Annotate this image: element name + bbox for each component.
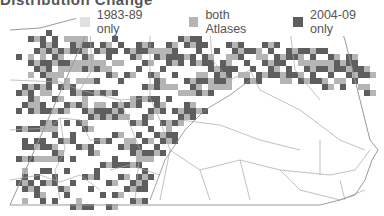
atlas-cell bbox=[118, 192, 124, 198]
atlas-cell bbox=[28, 180, 34, 186]
atlas-cell bbox=[136, 120, 142, 126]
atlas-cell bbox=[58, 150, 64, 156]
atlas-cell bbox=[76, 36, 82, 42]
atlas-cell bbox=[202, 78, 208, 84]
atlas-cell bbox=[112, 36, 118, 42]
atlas-cell bbox=[142, 42, 148, 48]
atlas-cell bbox=[100, 66, 106, 72]
atlas-cell bbox=[358, 66, 364, 72]
atlas-cell bbox=[184, 54, 190, 60]
atlas-cell bbox=[70, 42, 76, 48]
atlas-cell bbox=[238, 48, 244, 54]
atlas-cell bbox=[124, 174, 130, 180]
atlas-cell bbox=[100, 60, 106, 66]
atlas-cell bbox=[328, 66, 334, 72]
atlas-cell bbox=[172, 120, 178, 126]
atlas-cell bbox=[34, 186, 40, 192]
atlas-cell bbox=[352, 54, 358, 60]
atlas-cell bbox=[70, 180, 76, 186]
legend-item-both-atlases: both Atlases bbox=[189, 8, 272, 36]
atlas-cell bbox=[316, 60, 322, 66]
atlas-cell bbox=[136, 150, 142, 156]
atlas-cell bbox=[124, 138, 130, 144]
atlas-cell bbox=[196, 108, 202, 114]
atlas-cell bbox=[172, 84, 178, 90]
atlas-cell bbox=[256, 72, 262, 78]
atlas-cell bbox=[370, 72, 376, 78]
atlas-cell bbox=[280, 72, 286, 78]
atlas-cell bbox=[304, 66, 310, 72]
atlas-cell bbox=[268, 42, 274, 48]
atlas-cell bbox=[22, 102, 28, 108]
atlas-cell bbox=[178, 90, 184, 96]
atlas-cell bbox=[40, 42, 46, 48]
atlas-cell bbox=[268, 48, 274, 54]
atlas-cell bbox=[94, 48, 100, 54]
atlas-cell bbox=[268, 66, 274, 72]
atlas-cell bbox=[172, 60, 178, 66]
atlas-cell bbox=[34, 36, 40, 42]
atlas-cell bbox=[82, 54, 88, 60]
atlas-cell bbox=[166, 96, 172, 102]
atlas-cell bbox=[118, 78, 124, 84]
atlas-cell bbox=[70, 102, 76, 108]
atlas-cell bbox=[298, 48, 304, 54]
atlas-cell bbox=[340, 78, 346, 84]
atlas-cell bbox=[256, 48, 262, 54]
atlas-cell bbox=[58, 96, 64, 102]
atlas-cell bbox=[106, 180, 112, 186]
atlas-cell bbox=[172, 72, 178, 78]
atlas-cell bbox=[46, 144, 52, 150]
atlas-cell bbox=[328, 54, 334, 60]
atlas-cell bbox=[64, 48, 70, 54]
atlas-cell bbox=[94, 114, 100, 120]
atlas-cell bbox=[142, 186, 148, 192]
atlas-cell bbox=[214, 48, 220, 54]
atlas-cell bbox=[22, 156, 28, 162]
atlas-cell bbox=[274, 42, 280, 48]
atlas-cell bbox=[52, 72, 58, 78]
atlas-cell bbox=[154, 72, 160, 78]
atlas-cell bbox=[130, 150, 136, 156]
atlas-cell bbox=[310, 48, 316, 54]
legend-swatch-light bbox=[80, 17, 90, 27]
atlas-cell bbox=[58, 54, 64, 60]
atlas-cell bbox=[196, 42, 202, 48]
atlas-cell bbox=[172, 108, 178, 114]
atlas-cell bbox=[268, 60, 274, 66]
atlas-cell bbox=[148, 72, 154, 78]
atlas-cell bbox=[226, 54, 232, 60]
atlas-cell bbox=[46, 48, 52, 54]
atlas-cell bbox=[238, 54, 244, 60]
atlas-cell bbox=[136, 48, 142, 54]
atlas-cell bbox=[148, 114, 154, 120]
atlas-cell bbox=[190, 90, 196, 96]
atlas-cell bbox=[262, 42, 268, 48]
atlas-cell bbox=[52, 54, 58, 60]
atlas-cell bbox=[64, 108, 70, 114]
atlas-cell bbox=[202, 72, 208, 78]
atlas-cell bbox=[298, 54, 304, 60]
atlas-cell bbox=[250, 78, 256, 84]
atlas-cell bbox=[82, 66, 88, 72]
atlas-cell bbox=[136, 198, 142, 204]
atlas-cell bbox=[40, 102, 46, 108]
atlas-cell bbox=[88, 114, 94, 120]
atlas-cell bbox=[232, 66, 238, 72]
atlas-cell bbox=[304, 60, 310, 66]
atlas-cell bbox=[94, 60, 100, 66]
atlas-cell bbox=[166, 60, 172, 66]
atlas-cell bbox=[148, 60, 154, 66]
atlas-cell bbox=[166, 84, 172, 90]
atlas-cell bbox=[328, 60, 334, 66]
atlas-cell bbox=[328, 84, 334, 90]
atlas-cell bbox=[40, 180, 46, 186]
atlas-cell bbox=[106, 138, 112, 144]
atlas-cell bbox=[22, 180, 28, 186]
atlas-cell bbox=[214, 72, 220, 78]
atlas-cell bbox=[52, 132, 58, 138]
atlas-cell bbox=[22, 84, 28, 90]
atlas-cell bbox=[106, 66, 112, 72]
atlas-cell bbox=[70, 36, 76, 42]
atlas-cell bbox=[130, 120, 136, 126]
